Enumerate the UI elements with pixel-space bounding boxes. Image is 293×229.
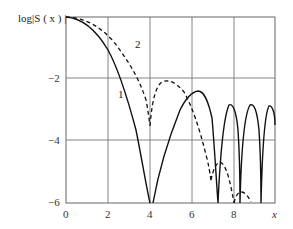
y-tick-neg4: −4: [48, 134, 60, 146]
x-tick-8: 8: [231, 208, 237, 220]
curve-1: [66, 17, 275, 203]
x-tick-0: 0: [63, 208, 69, 220]
y-tick-neg6: −6: [48, 196, 60, 208]
plot-frame: [66, 17, 275, 203]
curve-1-label: 1: [118, 88, 124, 100]
y-axis-label: log|S ( x ) |: [18, 12, 66, 25]
x-tick-2: 2: [105, 208, 111, 220]
grid-lines: [66, 17, 275, 203]
x-tick-6: 6: [189, 208, 195, 220]
curve-2-label: 2: [135, 38, 141, 50]
y-tick-neg2: −2: [48, 72, 60, 84]
x-tick-4: 4: [147, 208, 153, 220]
chart: log|S ( x ) | −2 −4 −6 0 2 4 6 8 x 1 2: [0, 0, 293, 229]
x-axis-label: x: [271, 208, 277, 220]
